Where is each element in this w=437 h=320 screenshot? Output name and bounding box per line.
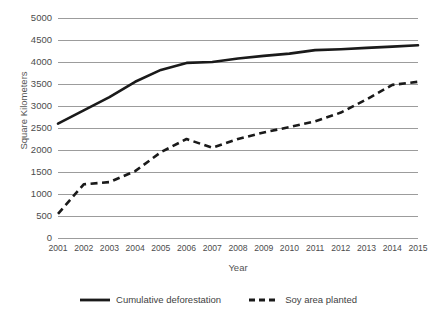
plot-area [58, 18, 418, 238]
legend-label-cumulative-deforestation: Cumulative deforestation [116, 294, 221, 305]
legend-label-soy-area-planted: Soy area planted [285, 294, 357, 305]
chart-legend: Cumulative deforestation Soy area plante… [0, 294, 437, 305]
series-layer [58, 18, 418, 238]
legend-swatch-dashed-icon [249, 295, 279, 305]
y-axis-tick-label: 500 [8, 211, 52, 221]
y-axis-tick-label: 3500 [8, 79, 52, 89]
y-axis-tick-label: 4500 [8, 35, 52, 45]
y-axis-tick-label: 1500 [8, 167, 52, 177]
line-chart: Square Kilometers 0500100015002000250030… [0, 0, 437, 320]
x-axis-tick-label: 2015 [402, 243, 434, 253]
y-axis-tick-label: 0 [8, 233, 52, 243]
y-axis-tick-label: 2500 [8, 123, 52, 133]
series-line-cumulative-deforestation [58, 45, 418, 123]
x-axis-title: Year [58, 262, 418, 273]
y-axis-tick-label: 5000 [8, 13, 52, 23]
legend-item-cumulative-deforestation: Cumulative deforestation [80, 294, 221, 305]
gridline [58, 238, 418, 239]
series-line-soy-area-planted [58, 82, 418, 214]
y-axis-tick-label: 4000 [8, 57, 52, 67]
y-axis-tick-label: 3000 [8, 101, 52, 111]
y-axis-tick-label: 2000 [8, 145, 52, 155]
legend-swatch-solid-icon [80, 295, 110, 305]
y-axis-tick-label: 1000 [8, 189, 52, 199]
legend-item-soy-area-planted: Soy area planted [249, 294, 357, 305]
